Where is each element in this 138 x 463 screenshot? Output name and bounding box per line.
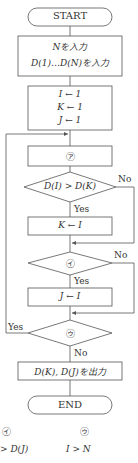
start-label: START — [48, 10, 92, 21]
end-label: END — [28, 399, 112, 410]
decision2-label: ㋑ — [28, 257, 112, 270]
decision1-yes: Yes — [74, 204, 89, 214]
decision3-yes: Yes — [8, 322, 23, 332]
decision1-label: D(I) > D(K) — [24, 181, 116, 191]
decision1-no: No — [118, 174, 131, 184]
input-line2: D(1)…D(N)を入力 — [18, 56, 122, 69]
decision3-no: No — [74, 348, 87, 358]
init-line1: I ← 1 — [28, 89, 112, 99]
decision3-label: ㋒ — [28, 327, 112, 340]
output-label: D(K), D(J)を出力 — [18, 365, 122, 378]
init-line2: K ← 1 — [28, 102, 112, 112]
input-line1: Nを入力 — [18, 40, 122, 53]
option-header-u: ㋒ — [80, 425, 89, 438]
init-line3: J ← 1 — [28, 115, 112, 125]
option-header-i: ㋑ — [2, 425, 11, 438]
flowchart-diagram — [0, 0, 138, 463]
decision2-no: No — [114, 250, 127, 260]
decision2-yes: Yes — [74, 276, 89, 286]
option-row1-i: > D(J) — [0, 444, 28, 454]
option-row1-u: I > N — [66, 444, 91, 454]
assign-j-label: J ← I — [28, 291, 112, 301]
process-a-label: ㋐ — [28, 150, 112, 163]
assign-k-label: K ← I — [28, 220, 112, 230]
